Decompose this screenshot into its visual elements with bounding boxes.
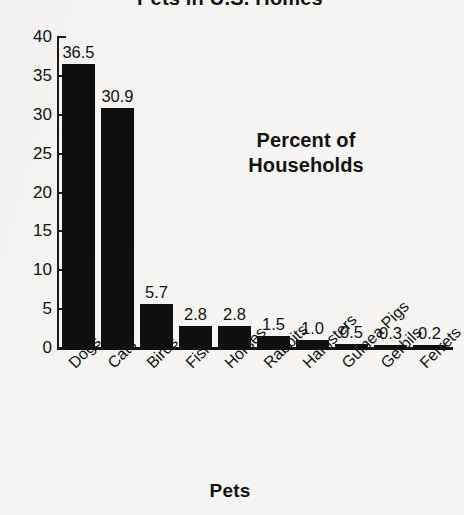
bar-value-label: 30.9 [92, 88, 144, 105]
bar [62, 64, 95, 348]
chart-title: Pets in U.S. Homes [0, 0, 460, 10]
y-axis-tick-label: 40 [20, 28, 52, 45]
annotation-line-2: Households [248, 154, 363, 176]
bar [101, 108, 134, 348]
y-axis-tick-label: 0 [20, 339, 52, 356]
y-axis-tick-mark [57, 36, 66, 38]
y-axis-tick-label: 25 [20, 145, 52, 162]
plot-annotation: Percent of Households [196, 128, 416, 178]
y-axis-tick-label: 30 [20, 106, 52, 123]
y-axis-tick-label: 5 [20, 300, 52, 317]
annotation-line-1: Percent of [257, 129, 356, 151]
y-axis-tick-label: 35 [20, 67, 52, 84]
x-axis-title: Pets [0, 480, 460, 502]
y-axis-tick-label: 20 [20, 184, 52, 201]
bar-value-label: 36.5 [53, 44, 105, 61]
y-axis-tick-label: 10 [20, 261, 52, 278]
y-axis-tick-label: 15 [20, 222, 52, 239]
bar-value-label: 5.7 [131, 284, 183, 301]
